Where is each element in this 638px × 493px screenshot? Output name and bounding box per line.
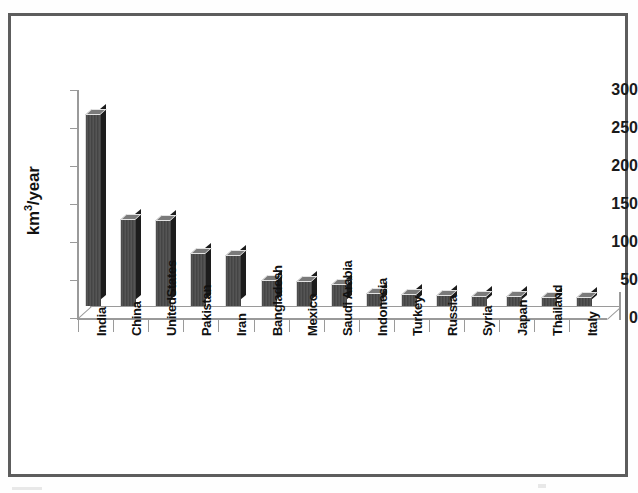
bar-front-face (85, 115, 101, 306)
x-axis-tick (429, 320, 430, 332)
perspective-line-left (78, 306, 92, 319)
bar-front-face (120, 220, 136, 306)
x-axis-tick (254, 320, 255, 332)
x-axis-category-label: Iran (234, 313, 249, 336)
y-axis-tick-label: 50 (578, 272, 638, 288)
x-axis-tick (464, 320, 465, 332)
bar (576, 298, 591, 306)
x-axis-category-label: Russia (445, 295, 460, 336)
x-axis-category-label: Thailand (550, 285, 565, 336)
y-axis-title-suffix: /year (24, 166, 43, 205)
x-axis-tick (359, 320, 360, 332)
x-axis-tick (289, 320, 290, 332)
bar-front-face (225, 256, 241, 306)
y-axis-tick (70, 166, 77, 167)
y-axis-tick (70, 204, 77, 205)
y-axis-tick (70, 90, 77, 91)
x-axis-tick (78, 320, 79, 332)
y-axis-title-superscript: 3 (22, 205, 34, 211)
plot-area: km3/year 300250200150100500 IndiaChinaUn… (0, 0, 638, 493)
y-axis-tick-label: 200 (578, 158, 638, 174)
scan-artifact (538, 484, 546, 488)
x-axis-category-label: Japan (515, 300, 530, 336)
scan-artifact (12, 487, 42, 490)
y-axis-title-text: km (24, 211, 43, 235)
x-axis-category-label: Italy (585, 311, 600, 336)
x-axis-category-label: Syria (480, 306, 495, 336)
x-axis-category-label: China (129, 301, 144, 336)
x-axis-tick (324, 320, 325, 332)
bar (120, 220, 135, 306)
y-axis-line (77, 90, 79, 319)
x-axis-tick (113, 320, 114, 332)
y-axis-tick (70, 242, 77, 243)
y-axis-tick-label: 100 (578, 234, 638, 250)
bar-front-face (471, 297, 487, 306)
x-axis-tick (394, 320, 395, 332)
x-axis-category-label: Pakistan (199, 285, 214, 336)
x-axis-category-label: Saudi Arabia (340, 261, 355, 336)
y-axis-title: km3/year (22, 146, 44, 256)
x-axis-category-label: India (94, 307, 109, 336)
figure-canvas: km3/year 300250200150100500 IndiaChinaUn… (0, 0, 638, 493)
bar (85, 115, 100, 306)
x-axis-category-label: UnitedStates (164, 260, 179, 336)
bar-front-face (576, 298, 592, 306)
x-axis-tick (218, 320, 219, 332)
y-axis-tick (70, 318, 77, 319)
x-axis-category-label: Mexico (305, 294, 320, 336)
x-axis-tick (183, 320, 184, 332)
x-axis-tick (534, 320, 535, 332)
y-axis-tick (70, 280, 77, 281)
bar (471, 297, 486, 306)
y-axis-tick-label: 150 (578, 196, 638, 212)
x-axis-category-label: Bangladesh (270, 265, 285, 336)
bar (225, 256, 240, 306)
x-axis-tick (569, 320, 570, 332)
x-axis-category-label: Turkey (410, 296, 425, 336)
x-axis-category-label: Indonesia (375, 278, 390, 336)
x-axis-tick (499, 320, 500, 332)
y-axis-tick (70, 128, 77, 129)
y-axis-tick-label: 250 (578, 120, 638, 136)
y-axis-tick-label: 300 (578, 82, 638, 98)
x-axis-tick (148, 320, 149, 332)
